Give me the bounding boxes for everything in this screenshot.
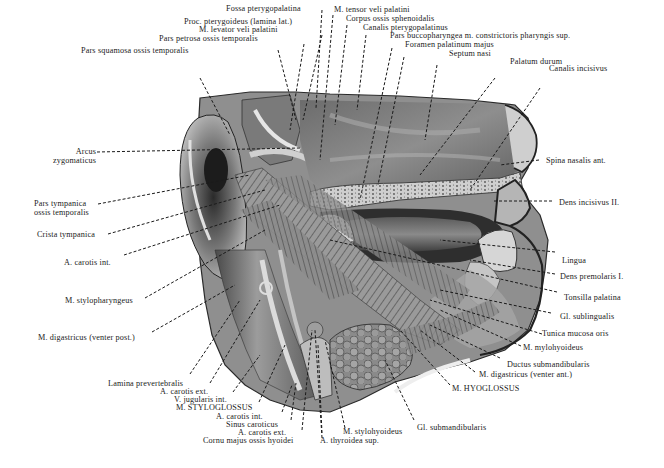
label-m-hyoglossus: M. HYOGLOSSUS <box>452 384 519 393</box>
label-canalis-incisivus: Canalis incisivus <box>549 64 607 73</box>
label-pars-buccopharyngea: Pars buccopharyngea m. constrictoris pha… <box>390 31 570 40</box>
label-m-digastricus-ant: M. digastricus (venter ant.) <box>479 370 572 379</box>
label-m-mylohyoideus: M. mylohyoideus <box>523 343 583 352</box>
ear-canal <box>204 148 228 192</box>
label-lingua: Lingua <box>562 256 586 265</box>
label-ductus-submandibularis: Ductus submandibularis <box>507 360 590 369</box>
label-m-tensor-veli-palatini: M. tensor veli palatini <box>334 5 410 14</box>
label-m-stylopharyngeus: M. stylopharyngeus <box>65 296 133 305</box>
label-septum-nasi: Septum nasi <box>449 49 491 58</box>
label-dens-incisivus-ii: Dens incisivus II. <box>559 198 619 207</box>
label-spina-nasalis-ant: Spina nasalis ant. <box>546 156 606 165</box>
label-m-levator-veli-palatini: M. levator veli palatini <box>199 25 278 34</box>
label-tunica-mucosa-oris: Tunica mucosa oris <box>542 329 609 338</box>
label-a-carotis-int-left: A. carotis int. <box>64 258 111 267</box>
label-gl-submandibularis: Gl. submandibularis <box>417 423 486 432</box>
label-foramen-palatinum-majus: Foramen palatinum majus <box>405 40 494 49</box>
label-a-thyroidea-sup: A. thyroidea sup. <box>320 436 379 445</box>
label-fossa-pterygopalatina: Fossa pterygopalatina <box>226 4 301 13</box>
label-cornu-majus: Cornu majus ossis hyoidei <box>203 436 293 445</box>
label-crista-tympanica: Crista tympanica <box>37 230 95 239</box>
label-m-digastricus-post: M. digastricus (venter post.) <box>38 333 135 342</box>
label-pars-petrosa: Pars petrosa ossis temporalis <box>159 34 258 43</box>
label-corpus-ossis-sphenoidalis: Corpus ossis sphenoidalis <box>346 14 434 23</box>
label-m-styloglossus: M. STYLOGLOSSUS <box>176 403 252 412</box>
label-dens-premolaris-i: Dens premolaris I. <box>560 272 623 281</box>
label-gl-sublingualis: Gl. sublingualis <box>560 312 614 321</box>
label-tonsilla-palatina: Tonsilla palatina <box>564 293 621 302</box>
label-pars-squamosa: Pars squamosa ossis temporalis <box>81 46 189 55</box>
label-m-stylohyoideus: M. stylohyoideus <box>343 427 402 436</box>
label-pars-tympanica: Pars tympanica ossis temporalis <box>34 199 89 217</box>
label-arcus-zygomaticus: Arcus zygomaticus <box>40 147 96 165</box>
